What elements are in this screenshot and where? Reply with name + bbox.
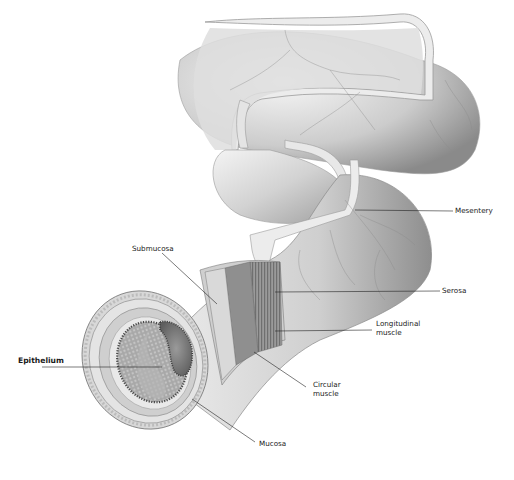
label-circular-line1: Circular [313,380,341,389]
label-circular-muscle: Circular muscle [313,380,341,398]
intestine-illustration [0,0,514,480]
label-serosa: Serosa [442,286,466,295]
upper-intestine-loop [178,14,480,174]
label-mucosa: Mucosa [259,439,286,448]
label-longitudinal-line1: Longitudinal [376,319,420,328]
label-longitudinal-line2: muscle [376,328,420,337]
label-submucosa: Submucosa [132,244,174,253]
cross-section [63,273,227,447]
label-mesentery: Mesentery [455,206,493,215]
label-longitudinal-muscle: Longitudinal muscle [376,319,420,337]
label-epithelium: Epithelium [18,356,64,365]
label-circular-line2: muscle [313,389,341,398]
